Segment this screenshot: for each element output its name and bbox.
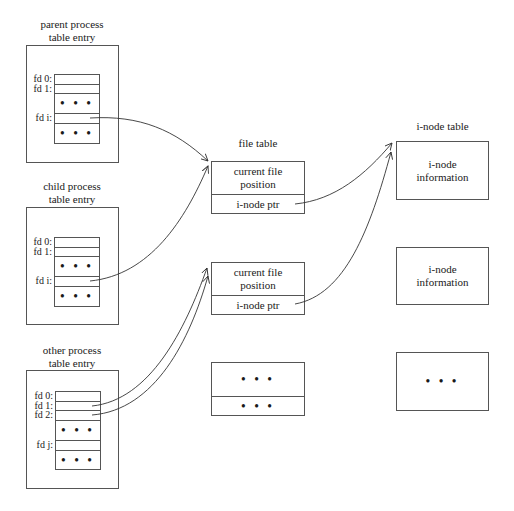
other-fd-j-label: fd j: xyxy=(23,440,53,450)
inode-entry-1-line1: i-node xyxy=(428,158,456,171)
inode-entry-2-line2: information xyxy=(417,276,469,289)
other-ellipsis-row-2: • • • xyxy=(56,451,100,469)
parent-fd-1-label: fd 1: xyxy=(22,84,52,94)
child-ellipsis-row: • • • xyxy=(55,257,99,277)
other-fd-2-row xyxy=(56,411,100,421)
child-title-line2: table entry xyxy=(26,193,118,206)
parent-title-line1: parent process xyxy=(26,18,118,31)
inode-table-entry-3: • • • xyxy=(396,352,489,411)
child-title-line1: child process xyxy=(26,180,118,193)
file-table-entry-3-bottom: • • • xyxy=(212,397,304,415)
file-table-entry-1-position-line2: position xyxy=(240,178,275,191)
parent-ellipsis-row-2: • • • xyxy=(55,124,99,143)
inode-table-title: i-node table xyxy=(396,120,489,133)
other-fd-j-row xyxy=(56,441,100,451)
inode-entry-1-line2: information xyxy=(417,171,469,184)
child-fd-1-row xyxy=(55,248,99,257)
other-title-line1: other process xyxy=(26,344,118,357)
child-fd-i-row xyxy=(55,277,99,287)
other-fd-0-row xyxy=(56,392,100,402)
parent-fd-i-label: fd i: xyxy=(22,113,52,123)
file-table-entry-1: current file position i-node ptr xyxy=(211,161,305,214)
file-table-entry-3: • • • • • • xyxy=(211,362,305,416)
arrow-ft2-inode xyxy=(295,152,391,304)
parent-ellipsis-row: • • • xyxy=(55,94,99,114)
file-table-entry-1-position: current file position xyxy=(212,162,304,195)
parent-fd-1-row xyxy=(55,85,99,94)
child-fd-0-row xyxy=(55,238,99,248)
other-fd-table: • • • • • • xyxy=(55,391,101,470)
child-fd-table: • • • • • • xyxy=(54,237,100,307)
child-fd-i-label: fd i: xyxy=(22,276,52,286)
child-fd-1-label: fd 1: xyxy=(22,247,52,257)
arrow-ft1-inode xyxy=(295,143,392,204)
file-table-entry-2: current file position i-node ptr xyxy=(211,262,305,315)
other-ellipsis-row: • • • xyxy=(56,421,100,441)
other-process-title: other process table entry xyxy=(26,344,118,370)
child-process-title: child process table entry xyxy=(26,180,118,206)
parent-fd-table: • • • • • • xyxy=(54,74,100,144)
inode-table-entry-2: i-node information xyxy=(396,247,489,305)
other-title-line2: table entry xyxy=(26,357,118,370)
file-table-title: file table xyxy=(211,137,305,150)
parent-fd-0-row xyxy=(55,75,99,85)
file-table-entry-2-position-line1: current file xyxy=(234,266,283,279)
file-table-entry-2-position: current file position xyxy=(212,263,304,296)
parent-process-title: parent process table entry xyxy=(26,18,118,44)
child-ellipsis-row-2: • • • xyxy=(55,287,99,306)
file-table-entry-2-inode-ptr: i-node ptr xyxy=(212,296,304,314)
file-table-entry-2-position-line2: position xyxy=(240,279,275,292)
inode-entry-2-line1: i-node xyxy=(428,263,456,276)
inode-table-entry-1: i-node information xyxy=(396,141,489,200)
file-table-entry-1-position-line1: current file xyxy=(234,165,283,178)
other-fd-2-label: fd 2: xyxy=(23,410,53,420)
other-fd-1-row xyxy=(56,402,100,411)
parent-fd-i-row xyxy=(55,114,99,124)
parent-title-line2: table entry xyxy=(26,31,118,44)
file-table-entry-3-top: • • • xyxy=(212,363,304,397)
file-table-entry-1-inode-ptr: i-node ptr xyxy=(212,195,304,213)
